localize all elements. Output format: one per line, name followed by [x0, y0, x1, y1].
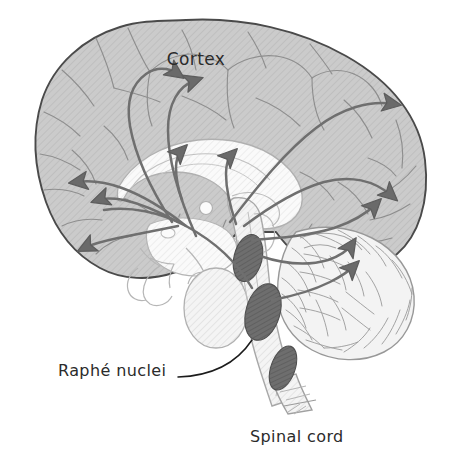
raphe-nuclei-label: Raphé nuclei — [58, 361, 166, 380]
brain-diagram-figure: Cortex Raphé nuclei Spinal cord — [0, 0, 450, 457]
brain-diagram-svg: Cortex Raphé nuclei Spinal cord — [0, 0, 450, 457]
cortex-label: Cortex — [167, 49, 226, 69]
foramen-circle — [200, 202, 213, 215]
spinal-cord-label: Spinal cord — [250, 427, 344, 446]
